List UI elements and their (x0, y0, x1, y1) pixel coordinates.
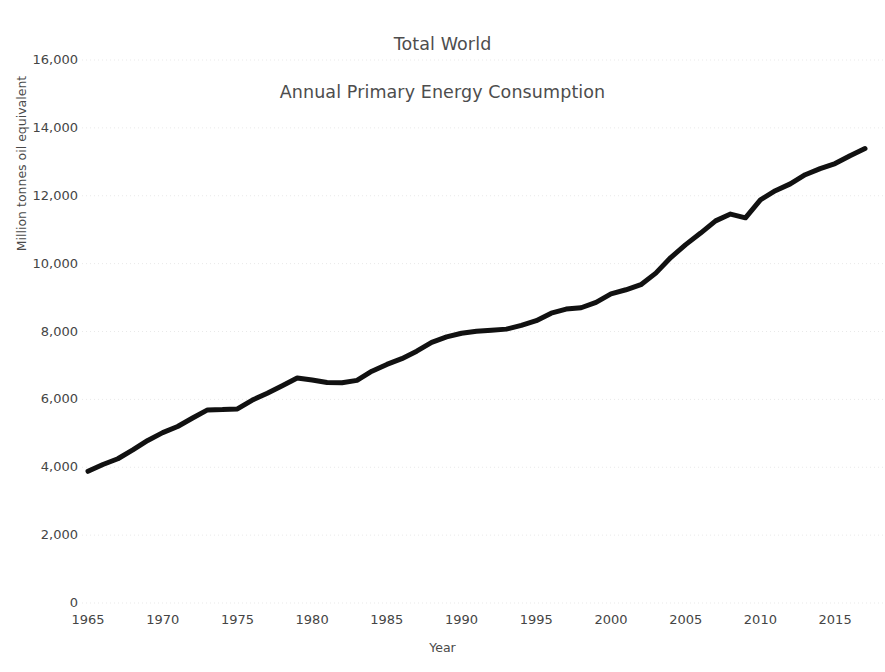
plot-area (0, 0, 885, 672)
chart-figure: Total World Annual Primary Energy Consum… (0, 0, 885, 672)
x-axis-label: Year (0, 640, 885, 655)
chart-canvas (0, 0, 885, 672)
data-series-line (88, 149, 865, 472)
